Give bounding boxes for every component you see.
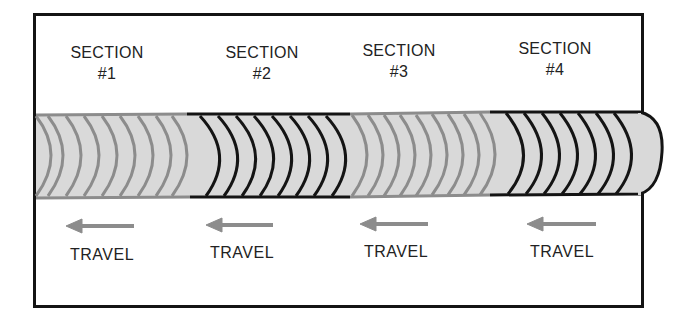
travel-arrows — [66, 217, 596, 233]
section-4-travel-label: TRAVEL — [512, 243, 612, 261]
section-3-travel-label: TRAVEL — [346, 243, 446, 261]
section-1-travel-label: TRAVEL — [52, 246, 152, 264]
weld-bead-illustration — [0, 0, 684, 322]
section-2-travel-label: TRAVEL — [192, 244, 292, 262]
